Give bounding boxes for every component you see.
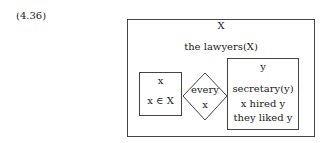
right-condition: x hired y bbox=[227, 98, 299, 110]
quantifier-variable: x bbox=[181, 99, 229, 111]
left-condition: x ∈ X bbox=[139, 95, 182, 107]
right-condition: they liked y bbox=[227, 112, 299, 124]
example-number: (4.36) bbox=[16, 10, 46, 21]
right-condition: secretary(y) bbox=[227, 83, 299, 95]
right-universe: y bbox=[227, 61, 299, 73]
quantifier-word: every bbox=[181, 84, 229, 96]
outer-condition: the lawyers(X) bbox=[127, 41, 315, 53]
quantifier-diamond bbox=[181, 72, 229, 122]
outer-universe: X bbox=[127, 20, 315, 32]
left-universe: x bbox=[139, 75, 182, 87]
